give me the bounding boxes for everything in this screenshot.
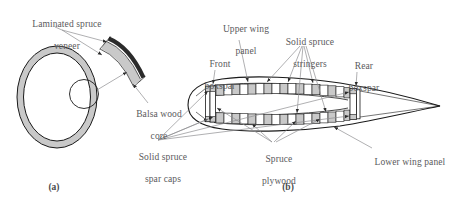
label-balsa-wood-core-line1: Balsa wood <box>136 109 182 119</box>
label-rear-boxspar: Rear boxspar <box>330 50 388 105</box>
label-upper-wing-panel-line1: Upper wing <box>223 24 269 34</box>
caption-b: (b) <box>268 182 308 192</box>
label-solid-spruce-spar-caps: Solid spruce spar caps <box>118 141 198 196</box>
label-solid-spruce-spar-caps-line1: Solid spruce <box>139 152 187 162</box>
label-front-boxspar: Front boxspar <box>184 48 246 103</box>
label-rear-boxspar-line1: Rear <box>355 61 373 71</box>
label-laminated-spruce-veneer: Laminated spruce veneer <box>12 8 112 63</box>
label-lower-wing-panel-line1: Lower wing panel <box>375 157 446 167</box>
label-front-boxspar-line1: Front <box>209 59 230 69</box>
figure-canvas: Laminated spruce veneer Balsa wood core … <box>0 0 454 209</box>
label-balsa-wood-core-line2: core <box>151 131 168 141</box>
label-solid-spruce-stringers-line2: stringers <box>293 59 327 69</box>
label-laminated-spruce-veneer-line2: veneer <box>54 41 80 51</box>
label-solid-spruce-spar-caps-line2: spar caps <box>145 174 181 184</box>
label-rear-boxspar-line2: boxspar <box>349 83 380 93</box>
label-lower-wing-panel: Lower wing panel <box>358 146 452 179</box>
label-solid-spruce-stringers-line1: Solid spruce <box>286 37 334 47</box>
caption-a: (a) <box>34 182 74 192</box>
label-laminated-spruce-veneer-line1: Laminated spruce <box>32 19 101 29</box>
label-front-boxspar-line2: boxspar <box>205 81 236 91</box>
label-spruce-plywood-line1: Spruce <box>265 154 292 164</box>
